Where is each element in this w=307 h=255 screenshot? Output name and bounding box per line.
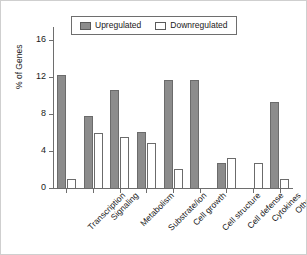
bar-downregulated <box>254 163 263 189</box>
y-axis-tick-label: 12 <box>36 72 46 81</box>
bar-upregulated <box>217 163 226 189</box>
bar-upregulated <box>84 116 93 189</box>
bar-chart-figure: Upregulated Downregulated % of Genes 048… <box>0 0 307 255</box>
y-axis-title: % of Genes <box>15 45 24 89</box>
y-axis-tick: 0 <box>49 188 53 189</box>
y-axis-tick: 16 <box>49 40 53 41</box>
x-axis-category-labels: TranscriptionSignalingMetabolismSubstrat… <box>53 191 293 255</box>
bar-upregulated <box>270 102 279 189</box>
y-axis-tick: 8 <box>49 114 53 115</box>
bar-upregulated <box>164 80 173 189</box>
bar-downregulated <box>94 133 103 189</box>
bar-upregulated <box>137 132 146 189</box>
bars-layer <box>53 27 293 189</box>
bar-upregulated <box>57 75 66 189</box>
bar-downregulated <box>227 158 236 189</box>
y-axis-tick-label: 0 <box>41 183 46 192</box>
y-axis-tick: 12 <box>49 77 53 78</box>
y-axis-tick-label: 4 <box>41 146 46 155</box>
y-axis-tick: 4 <box>49 151 53 152</box>
y-axis-tick-label: 8 <box>41 109 46 118</box>
bar-downregulated <box>120 137 129 189</box>
bar-downregulated <box>280 179 289 189</box>
bar-downregulated <box>174 169 183 189</box>
y-axis-tick-label: 16 <box>36 35 46 44</box>
bar-upregulated <box>110 90 119 189</box>
bar-downregulated <box>147 143 156 189</box>
bar-downregulated <box>67 179 76 189</box>
bar-upregulated <box>190 80 199 189</box>
plot-area: 0481216 <box>53 27 293 189</box>
